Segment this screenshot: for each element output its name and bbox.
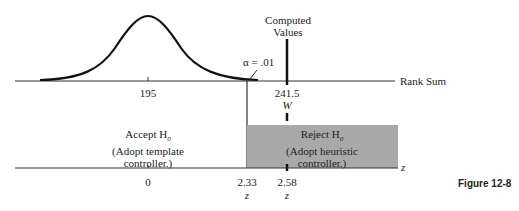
w-symbol: W bbox=[277, 99, 297, 111]
reject-region-label: Reject H0 (Adopt heuristic controller.) bbox=[262, 128, 382, 169]
rank-sum-label: Rank Sum bbox=[400, 75, 446, 87]
computed-values-label: Computed Values bbox=[263, 14, 313, 38]
z-axis-label: z bbox=[401, 161, 405, 173]
mean-tick-label: 195 bbox=[133, 87, 163, 99]
critical-z-symbol: z bbox=[237, 189, 257, 201]
computed-tick-label: 241.5 bbox=[272, 87, 302, 99]
computed-z-symbol: z bbox=[277, 189, 297, 201]
alpha-label: α = .01 bbox=[243, 56, 274, 68]
accept-region-label: Accept H0 (Adopt template controller.) bbox=[88, 128, 208, 169]
computed-z-label: 2.58 bbox=[272, 176, 302, 188]
normal-curve bbox=[40, 16, 258, 80]
critical-z-label: 2.33 bbox=[232, 176, 262, 188]
figure-caption: Figure 12-8 bbox=[458, 178, 511, 189]
zero-tick-label: 0 bbox=[138, 176, 158, 188]
alpha-leader bbox=[250, 70, 257, 79]
